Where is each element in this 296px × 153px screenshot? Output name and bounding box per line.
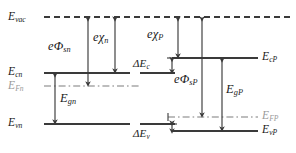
label-delta-ec: ΔEc [133,58,150,69]
label-e-gn: Egn [60,92,76,105]
label-e-phi-sp: eΦsP [174,73,198,86]
label-e-phi-sn: eΦsn [48,40,71,53]
label-delta-ev: ΔEv [133,128,150,139]
label-e-cn: Ecn [8,66,22,78]
label-e-vn: Evn [8,117,22,129]
label-e-vp: EvP [262,124,277,136]
label-e-vac: Evac [8,11,26,23]
label-e-chi-p: eχP [147,28,163,41]
label-e-gp: EgP [226,83,243,96]
label-e-cp: EcP [262,51,277,63]
band-diagram-canvas: Evac Ecn EFn Evn EcP EFP EvP eΦsn eχn eχ… [0,0,296,153]
label-e-chi-n: eχn [93,31,108,44]
label-e-fn: EFn [8,80,24,92]
label-e-fp: EFP [262,110,278,122]
